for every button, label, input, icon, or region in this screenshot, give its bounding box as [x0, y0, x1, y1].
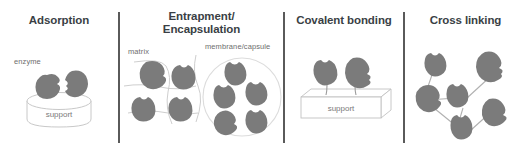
support-label-text: support [46, 110, 73, 119]
panel-adsorption: Adsorption enzyme support [0, 0, 118, 155]
covalent-bonding-artwork: support [285, 0, 403, 155]
panel-cross-linking: Cross linking [405, 0, 526, 155]
panel-divider-1 [118, 12, 120, 143]
support-label-text-covalent: support [328, 104, 355, 113]
panel-entrapment-encapsulation: Entrapment/ Encapsulation matrix membran… [120, 0, 283, 155]
entrapment-artwork [120, 0, 283, 155]
cross-linking-artwork [405, 0, 526, 155]
panel-divider-2 [283, 12, 285, 143]
panel-covalent-bonding: Covalent bonding support [285, 0, 403, 155]
panel-divider-3 [403, 12, 405, 143]
enzyme-immobilization-diagram: Adsorption enzyme support Entrapment/ En… [0, 0, 526, 155]
adsorption-artwork: support [0, 0, 118, 155]
